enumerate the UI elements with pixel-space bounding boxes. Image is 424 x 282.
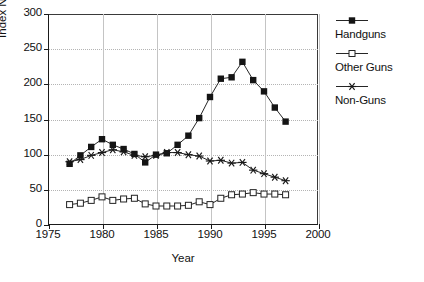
legend-marker-other-guns	[335, 47, 423, 60]
x-tick-label: 1995	[241, 228, 287, 240]
chart-legend: HandgunsOther GunsNon-Guns	[335, 14, 423, 113]
y-tick-label: 50	[2, 182, 42, 194]
data-point-asterisk	[348, 83, 356, 90]
y-tick	[44, 49, 49, 50]
legend-marker-non-guns	[335, 80, 423, 93]
y-tick	[44, 84, 49, 85]
y-tick	[44, 155, 49, 156]
x-tick-label: 1990	[187, 228, 233, 240]
gridline-vertical	[157, 14, 158, 224]
gridline-horizontal	[49, 120, 318, 121]
x-tick-label: 1980	[79, 228, 125, 240]
gridline-vertical	[265, 14, 266, 224]
x-axis-title: Year	[48, 252, 318, 264]
x-tick-label: 1985	[133, 228, 179, 240]
gridline-horizontal	[49, 190, 318, 191]
chart-figure: 050100150200250300 197519801985199019952…	[0, 0, 424, 282]
y-tick-label: 200	[2, 76, 42, 88]
y-tick-label: 150	[2, 112, 42, 124]
legend-label: Other Guns	[335, 61, 423, 73]
data-point-open-square	[349, 51, 355, 57]
plot-top-border	[49, 14, 318, 15]
y-tick-label: 300	[2, 6, 42, 18]
y-tick	[44, 120, 49, 121]
y-tick-label: 250	[2, 41, 42, 53]
gridline-vertical	[319, 14, 320, 224]
gridline-vertical	[103, 14, 104, 224]
x-tick-label: 1975	[25, 228, 71, 240]
legend-marker-handguns	[335, 14, 423, 27]
legend-label: Non-Guns	[335, 94, 423, 106]
y-tick	[44, 190, 49, 191]
legend-label: Handguns	[335, 28, 423, 40]
data-point-filled-square	[349, 17, 355, 23]
x-tick-label: 2000	[295, 228, 341, 240]
plot-area	[48, 14, 318, 225]
y-axis-title: Index Number of Homicides	[0, 0, 8, 42]
y-tick	[44, 14, 49, 15]
gridline-vertical	[211, 14, 212, 224]
gridline-horizontal	[49, 155, 318, 156]
gridline-horizontal	[49, 49, 318, 50]
gridline-horizontal	[49, 84, 318, 85]
y-tick-label: 100	[2, 147, 42, 159]
